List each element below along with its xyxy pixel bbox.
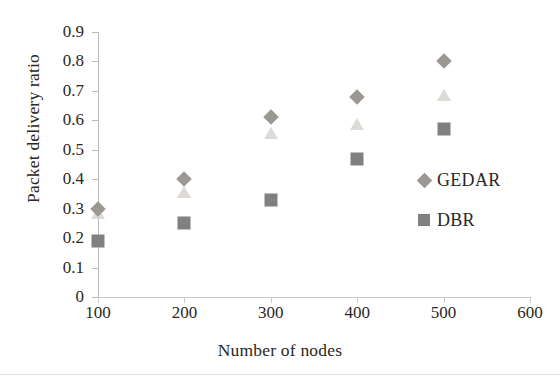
y-tick: 0.9 [92,32,98,33]
x-tick-label: 100 [85,303,111,323]
chart-figure: Packet delivery ratio Number of nodes 00… [0,0,560,379]
x-tick-label: 400 [344,303,370,323]
diamond-icon [416,172,432,188]
data-point-dbr [92,235,105,248]
y-tick-label: 0 [76,287,85,307]
x-tick-label: 500 [431,303,457,323]
data-point-triangle [437,89,451,101]
y-tick-label: 0.5 [63,140,84,160]
data-point-triangle [177,186,191,198]
y-tick: 0.7 [92,91,98,92]
y-tick-label: 0.8 [63,51,84,71]
legend-label: DBR [437,210,475,231]
y-tick-label: 0.1 [63,258,84,278]
data-point-gedar [436,54,452,70]
y-tick-label: 0.2 [63,228,84,248]
y-tick-label: 0.3 [63,199,84,219]
data-point-gedar [263,110,279,126]
y-axis-title: Packet delivery ratio [23,4,44,254]
y-tick-label: 0.6 [63,110,84,130]
chart-legend: GEDARDBR [416,160,501,240]
data-point-triangle [264,127,278,139]
legend-item-dbr[interactable]: DBR [416,200,501,240]
data-point-gedar [177,171,193,187]
data-point-dbr [178,217,191,230]
data-point-triangle [350,118,364,130]
y-tick: 0.8 [92,61,98,62]
legend-item-gedar[interactable]: GEDAR [416,160,501,200]
y-tick-label: 0.9 [63,22,84,42]
x-tick-label: 300 [258,303,284,323]
y-tick: 0.1 [92,268,98,269]
x-axis-title: Number of nodes [0,340,560,361]
y-tick: 0.5 [92,150,98,151]
data-point-gedar [349,89,365,105]
x-axis-line [98,297,530,298]
y-tick: 0.6 [92,120,98,121]
legend-label: GEDAR [437,170,501,191]
y-tick-label: 0.7 [63,81,84,101]
y-tick: 0.4 [92,179,98,180]
square-icon [416,212,432,228]
x-tick-label: 200 [172,303,198,323]
data-point-dbr [351,152,364,165]
bottom-divider [0,374,560,375]
y-axis-line [98,32,99,297]
data-point-dbr [437,123,450,136]
y-tick-label: 0.4 [63,169,84,189]
x-tick-label: 600 [517,303,543,323]
data-point-dbr [264,193,277,206]
